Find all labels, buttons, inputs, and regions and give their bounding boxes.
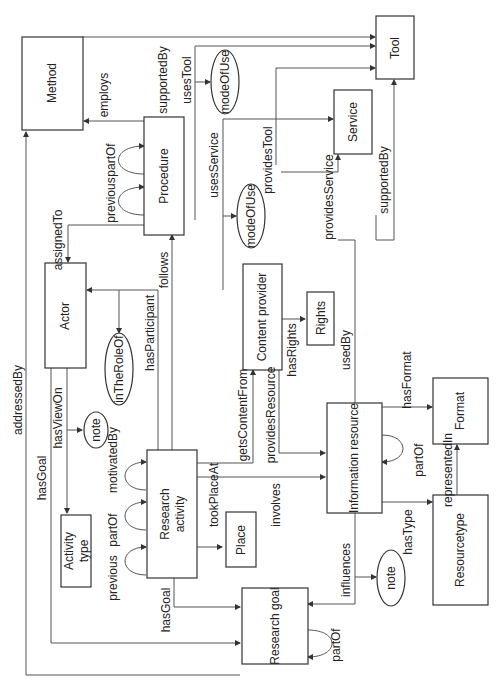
label-part-of-activity: partOf (106, 513, 120, 547)
label-influences: influences (339, 543, 353, 597)
label-follows: follows (157, 252, 171, 289)
format-label: Format (453, 391, 467, 430)
node-research-activity: Research activity (147, 450, 197, 578)
label-previous-activity: previous (106, 555, 120, 600)
ellipse-in-the-role-of: inTheRoleOf (105, 333, 133, 405)
node-activity-type: Activity type (61, 515, 91, 587)
information-resource-label: Information resource (347, 403, 361, 513)
tool-label: Tool (388, 37, 402, 59)
label-provides-resource: providesResource (264, 366, 278, 463)
label-part-of-procedure: partOf (104, 143, 118, 177)
ontology-diagram: Method Tool Service Procedure Actor Cont… (0, 0, 501, 681)
label-uses-service: usesService (207, 132, 221, 198)
ellipse-note-1: note (84, 412, 108, 448)
node-service: Service (334, 90, 372, 154)
label-part-of-resource: partOf (412, 443, 426, 477)
node-rights: Rights (307, 292, 334, 345)
content-provider-label: Content provider (255, 273, 269, 362)
label-provides-tool: providesTool (261, 126, 275, 193)
node-information-resource: Information resource (327, 403, 382, 513)
label-provides-service: providesService (322, 154, 336, 240)
research-activity-label-2: activity (173, 496, 187, 533)
research-activity-label-1: Research (158, 488, 172, 539)
label-part-of-goal: partOf (329, 628, 343, 662)
service-label: Service (346, 102, 360, 142)
label-has-goal-2: hasGoal (159, 588, 173, 633)
node-procedure: Procedure (144, 117, 184, 235)
label-supported-by-2: supportedBy (377, 146, 391, 213)
procedure-label: Procedure (157, 148, 171, 204)
node-research-goal: Research goal (242, 587, 308, 664)
label-previous-procedure: previous (104, 177, 118, 222)
ellipse-note-2: note (377, 550, 405, 606)
svg-text:modeOfUse: modeOfUse (244, 184, 258, 248)
label-has-rights: hasRights (285, 323, 299, 376)
label-assigned-to: assignedTo (51, 209, 65, 270)
node-method: Method (22, 37, 83, 130)
activity-type-label-2: type (77, 539, 91, 562)
svg-text:note: note (89, 418, 103, 442)
node-actor: Actor (45, 263, 86, 368)
label-used-by: usedBy (339, 330, 353, 370)
svg-text:inTheRoleOf: inTheRoleOf (112, 335, 126, 403)
svg-text:modeOfUse: modeOfUse (218, 50, 232, 114)
label-addressed-by: addressedBy (11, 365, 25, 435)
research-goal-label: Research goal (268, 587, 282, 664)
place-label: Place (234, 525, 248, 555)
label-gets-content-from: getsContentFrom (236, 369, 250, 462)
label-has-view-on: hasViewOn (51, 387, 65, 448)
label-has-goal-1: hasGoal (35, 456, 49, 501)
node-resourcetype: Resourcetype (433, 495, 488, 605)
label-has-type: hasType (401, 509, 415, 555)
label-has-participant: hasParticipant (143, 294, 157, 371)
ellipse-mode-of-use-1: modeOfUse (211, 50, 239, 114)
label-motivated-by: motivatedBy (106, 427, 120, 493)
label-involves: involves (269, 483, 283, 526)
rights-label: Rights (314, 301, 328, 335)
svg-text:note: note (384, 566, 398, 590)
label-took-place-at: tookPlaceAt (207, 462, 221, 527)
method-label: Method (45, 63, 59, 103)
actor-label: Actor (58, 302, 72, 330)
label-represented-in: representedIn (441, 433, 455, 507)
label-uses-tool: usesTool (180, 56, 194, 103)
node-tool: Tool (376, 16, 414, 79)
label-employs: employs (97, 73, 111, 118)
activity-type-label-1: Activity (62, 532, 76, 570)
node-place: Place (226, 512, 256, 567)
node-content-provider: Content provider (243, 264, 282, 370)
label-has-format: hasFormat (400, 351, 414, 409)
resourcetype-label: Resourcetype (453, 513, 467, 587)
label-supported-by-1: supportedBy (156, 46, 170, 113)
